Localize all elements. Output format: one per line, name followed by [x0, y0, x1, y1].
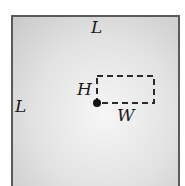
dashed-rectangle	[97, 76, 154, 103]
label-left-L: L	[15, 98, 26, 115]
label-W: W	[117, 107, 134, 124]
corner-point	[93, 99, 101, 107]
label-top-L: L	[91, 19, 102, 36]
label-H: H	[77, 81, 92, 98]
